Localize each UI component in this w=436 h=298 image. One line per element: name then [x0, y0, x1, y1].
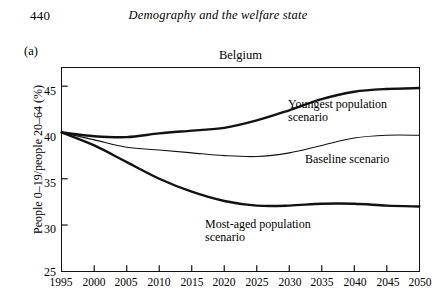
y-tick-45: 45 — [30, 84, 56, 99]
chart-title: Belgium — [61, 48, 420, 63]
y-tick-30: 30 — [30, 222, 56, 237]
figure-belgium: Belgium People 0–19/people 20–64 (%) 45 … — [0, 34, 436, 298]
running-title: Demography and the welfare state — [0, 8, 436, 23]
x-tick-2050: 2050 — [400, 276, 436, 288]
y-tick-40: 40 — [30, 130, 56, 145]
y-tick-35: 35 — [30, 176, 56, 191]
annotation-baseline-scenario: Baseline scenario — [305, 153, 389, 166]
running-head: 440 Demography and the welfare state — [0, 8, 436, 30]
annotation-most-aged-scenario: Most-aged population scenario — [205, 218, 311, 245]
annotation-youngest-scenario: Youngest population scenario — [288, 98, 387, 125]
page-root: 440 Demography and the welfare state (a)… — [0, 0, 436, 298]
